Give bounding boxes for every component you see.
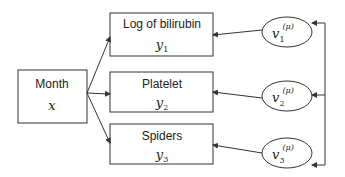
outcome-node-platelet: Platelet y2 bbox=[110, 72, 213, 112]
edge-month-to-bilirubin bbox=[87, 37, 110, 93]
month-symbol: x bbox=[48, 98, 56, 113]
outcome-label-1: Log of bilirubin bbox=[123, 17, 201, 31]
month-label: Month bbox=[35, 77, 68, 91]
month-node: Month x bbox=[18, 70, 87, 123]
latent-node-1: v1(μ) bbox=[262, 17, 312, 47]
edge-month-to-spiders bbox=[87, 93, 110, 143]
diagram-canvas: Month x Log of bilirubin y1 Platelet y2 … bbox=[0, 0, 345, 177]
edge-month-to-platelet bbox=[87, 93, 110, 94]
latent-node-2: v2(μ) bbox=[262, 81, 312, 111]
outcome-node-spiders: Spiders y3 bbox=[110, 124, 213, 164]
latent-node-3: v3(μ) bbox=[262, 138, 312, 168]
outcome-label-3: Spiders bbox=[142, 129, 183, 143]
edge-latent1-to-bilirubin bbox=[213, 30, 262, 35]
outcome-node-bilirubin: Log of bilirubin y1 bbox=[110, 13, 213, 56]
edge-latent3-to-spiders bbox=[213, 145, 262, 153]
edge-latent2-to-platelet bbox=[213, 92, 262, 98]
outcome-label-2: Platelet bbox=[142, 77, 183, 91]
